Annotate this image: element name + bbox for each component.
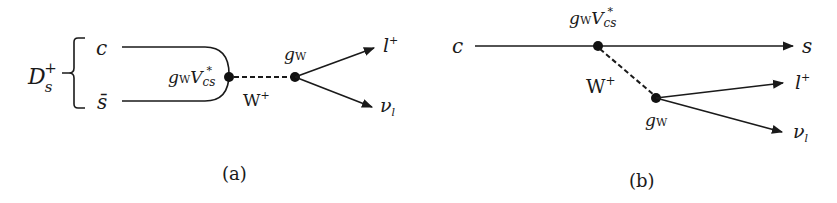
vertex1-coupling-label: gWVcs* [569,5,616,30]
vertex1-coupling-label: gWVcs* [168,64,215,89]
w-boson-label: W+ [243,89,270,110]
quark-c-label: c [96,36,107,60]
feynman-diagrams: Ds+ c s̄ gWVcs* W+ gW l+ νl (a) c s gWVc… [0,0,837,203]
w-boson-label: W+ [586,74,616,97]
panel-a-caption: (a) [222,163,247,184]
neutrino-label: νl [793,120,809,145]
quark-s-label: s [802,34,812,58]
brace [62,38,85,108]
quark-sbar-label: s̄ [97,90,107,114]
neutrino-line [656,98,782,132]
panel-b: c s gWVcs* W+ gW l+ νl (b) [452,5,812,191]
vertex2-coupling-label: gW [284,44,307,64]
neutrino-line [295,77,372,107]
panel-a: Ds+ c s̄ gWVcs* W+ gW l+ νl (a) [27,34,398,184]
quark-c-label: c [452,34,463,58]
meson-label: Ds+ [27,59,57,96]
lepton-label: l+ [795,71,810,93]
vertex-1 [224,72,234,82]
lepton-label: l+ [383,34,398,56]
neutrino-label: νl [380,94,396,119]
lepton-line [656,83,783,98]
vertex2-coupling-label: gW [645,110,668,130]
w-boson-propagator [600,49,654,95]
panel-b-caption: (b) [629,170,655,191]
lepton-line [295,48,374,77]
